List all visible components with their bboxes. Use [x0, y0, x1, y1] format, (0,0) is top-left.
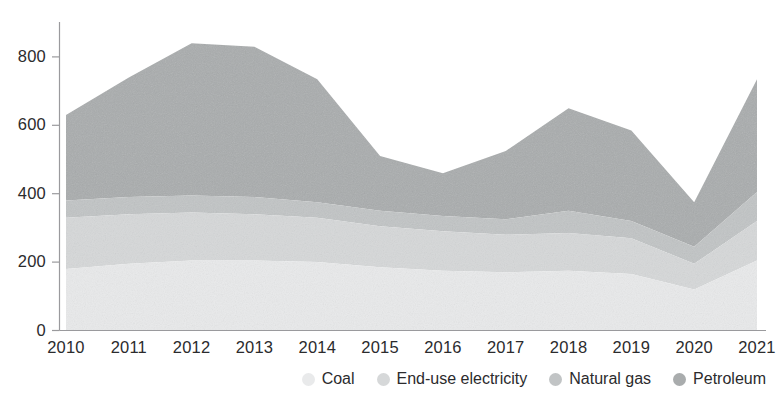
x-axis-label-2021: 2021 [729, 338, 780, 357]
area-series-group [66, 43, 757, 330]
legend-swatch-end-use-electricity [377, 373, 390, 386]
x-axis-label-2014: 2014 [289, 338, 345, 357]
x-axis-label-2011: 2011 [101, 338, 157, 357]
x-axis-label-2020: 2020 [666, 338, 722, 357]
y-axis-label-200: 200 [2, 252, 46, 271]
x-axis-label-2013: 2013 [226, 338, 282, 357]
x-axis-label-2012: 2012 [164, 338, 220, 357]
x-axis-label-2018: 2018 [541, 338, 597, 357]
legend-swatch-petroleum [673, 373, 686, 386]
legend-label-end-use-electricity: End-use electricity [397, 371, 528, 387]
x-axis-label-2016: 2016 [415, 338, 471, 357]
chart-legend: Coal End-use electricity Natural gas Pet… [0, 366, 774, 392]
legend-swatch-natural-gas [549, 373, 562, 386]
y-axis-label-600: 600 [2, 115, 46, 134]
y-axis-label-0: 0 [2, 321, 46, 340]
legend-item-end-use-electricity[interactable]: End-use electricity [377, 371, 528, 387]
x-axis-label-2015: 2015 [352, 338, 408, 357]
legend-swatch-coal [302, 373, 315, 386]
legend-label-petroleum: Petroleum [693, 371, 766, 387]
y-axis-label-400: 400 [2, 184, 46, 203]
legend-item-natural-gas[interactable]: Natural gas [549, 371, 651, 387]
legend-item-petroleum[interactable]: Petroleum [673, 371, 766, 387]
x-axis-label-2010: 2010 [38, 338, 94, 357]
x-axis-label-2019: 2019 [603, 338, 659, 357]
legend-label-natural-gas: Natural gas [569, 371, 651, 387]
y-axis-label-800: 800 [2, 47, 46, 66]
legend-label-coal: Coal [322, 371, 355, 387]
x-axis-label-2017: 2017 [478, 338, 534, 357]
legend-item-coal[interactable]: Coal [302, 371, 355, 387]
